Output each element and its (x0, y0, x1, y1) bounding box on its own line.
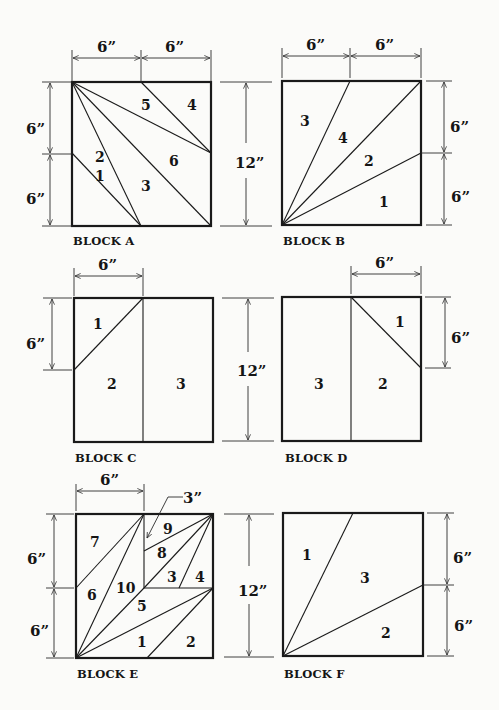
block-b-seams (282, 81, 421, 225)
piece-label: 7 (90, 534, 100, 550)
piece-label: 5 (137, 598, 147, 614)
dimension-label: 6” (450, 118, 469, 136)
piece-label: 2 (186, 634, 196, 650)
piece-label: 2 (364, 153, 374, 169)
quilt-block-diagram: 1 2 3 4 5 6 BLOCK A 6” 6” 6” 6” (0, 0, 499, 710)
block-a-width-dimension: 6” 6” (72, 38, 211, 82)
dimension-label: 6” (27, 550, 46, 568)
row2-height-dimension: 12” (222, 298, 274, 441)
piece-label: 3 (176, 376, 186, 392)
block-c: 1 2 3 BLOCK C 6” 6” (26, 256, 213, 465)
block-d: 1 2 3 BLOCK D 6” 6” (282, 254, 470, 465)
block-f-seams (283, 513, 423, 656)
piece-label: 1 (379, 194, 389, 210)
dimension-label: 12” (238, 582, 268, 600)
block-d-title: BLOCK D (285, 451, 347, 465)
piece-label: 2 (378, 376, 388, 392)
piece-label: 4 (195, 569, 205, 585)
dimension-label: 6” (451, 188, 470, 206)
row3-height-dimension: 12” (224, 514, 274, 657)
piece-label: 3 (300, 113, 310, 129)
block-b-width-dimension: 6” 6” (282, 36, 421, 78)
block-e: 1 2 3 4 5 6 7 8 9 10 BLOCK E 3” 6” 6” (27, 471, 213, 681)
piece-label: 1 (95, 168, 105, 184)
piece-label: 9 (163, 521, 173, 537)
dimension-label: 12” (237, 362, 267, 380)
block-c-title: BLOCK C (75, 451, 137, 465)
block-a-left-dimension: 6” 6” (26, 82, 72, 226)
dimension-label: 6” (453, 549, 472, 567)
block-d-seams (351, 297, 421, 441)
block-d-width-dimension: 6” (351, 254, 421, 294)
dimension-label: 6” (26, 120, 45, 138)
piece-label: 3 (314, 376, 324, 392)
piece-label: 3 (167, 569, 177, 585)
piece-label: 2 (107, 376, 117, 392)
piece-label: 4 (338, 130, 348, 146)
block-e-title: BLOCK E (77, 667, 138, 681)
dimension-label: 12” (235, 154, 265, 172)
block-b-title: BLOCK B (283, 234, 345, 248)
dimension-label: 6” (26, 190, 45, 208)
piece-label: 6 (87, 587, 97, 603)
block-c-seams (74, 298, 143, 442)
piece-label: 8 (157, 545, 167, 561)
dimension-label: 6” (26, 335, 45, 353)
piece-label: 3 (141, 178, 151, 194)
block-e-left-dimension: 6” 6” (27, 514, 74, 658)
block-a-title: BLOCK A (73, 234, 135, 248)
block-c-left-dimension: 6” (26, 298, 72, 370)
dimension-label: 6” (98, 256, 117, 274)
callout-label: 3” (183, 489, 202, 507)
block-f: 1 2 3 BLOCK F 6” 6” (283, 513, 473, 681)
dimension-label: 6” (100, 471, 119, 489)
dimension-label: 6” (97, 38, 116, 56)
block-b: 1 2 3 4 BLOCK B 6” 6” 6” 6” (282, 36, 470, 248)
block-a: 1 2 3 4 5 6 BLOCK A 6” 6” 6” 6” (26, 38, 211, 248)
block-f-title: BLOCK F (284, 667, 345, 681)
dimension-label: 6” (451, 329, 470, 347)
dimension-label: 6” (375, 254, 394, 272)
piece-label: 1 (137, 634, 147, 650)
piece-label: 2 (381, 625, 391, 641)
piece-label: 6 (169, 153, 179, 169)
piece-label: 2 (95, 149, 105, 165)
dimension-label: 6” (375, 36, 394, 54)
block-f-right-dimension: 6” 6” (423, 513, 473, 656)
dimension-label: 6” (30, 622, 49, 640)
dimension-label: 6” (165, 38, 184, 56)
piece-label: 10 (116, 580, 136, 596)
dimension-label: 6” (306, 36, 325, 54)
piece-label: 4 (187, 97, 197, 113)
block-e-width-dimension: 6” (76, 471, 144, 511)
block-c-width-dimension: 6” (74, 256, 143, 296)
piece-label: 1 (93, 316, 103, 332)
piece-label: 1 (395, 314, 405, 330)
block-b-right-dimension: 6” 6” (421, 81, 470, 225)
block-d-right-dimension: 6” (425, 297, 470, 368)
piece-label: 1 (302, 547, 312, 563)
piece-label: 3 (360, 570, 370, 586)
dimension-label: 6” (454, 617, 473, 635)
piece-label: 5 (141, 97, 151, 113)
row1-height-dimension: 12” (220, 82, 272, 226)
block-f-outline (283, 513, 423, 656)
